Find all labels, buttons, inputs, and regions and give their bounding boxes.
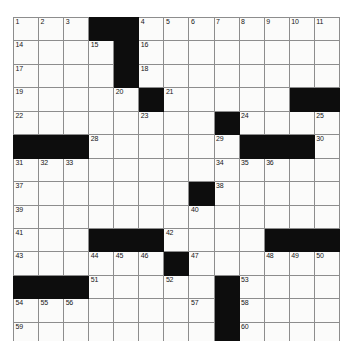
letter-cell[interactable]	[314, 41, 339, 64]
letter-cell[interactable]	[114, 275, 139, 298]
letter-cell[interactable]	[214, 228, 239, 251]
letter-cell[interactable]: 57	[189, 299, 214, 322]
letter-cell[interactable]	[314, 158, 339, 181]
letter-cell[interactable]	[164, 135, 189, 158]
letter-cell[interactable]	[189, 322, 214, 341]
letter-cell[interactable]	[64, 88, 89, 111]
letter-cell[interactable]: 10	[289, 18, 314, 41]
letter-cell[interactable]	[314, 322, 339, 341]
letter-cell[interactable]: 31	[14, 158, 39, 181]
letter-cell[interactable]	[39, 88, 64, 111]
letter-cell[interactable]	[289, 275, 314, 298]
letter-cell[interactable]	[164, 182, 189, 205]
letter-cell[interactable]	[189, 228, 214, 251]
letter-cell[interactable]	[139, 135, 164, 158]
letter-cell[interactable]	[64, 252, 89, 275]
letter-cell[interactable]	[89, 88, 114, 111]
letter-cell[interactable]	[189, 64, 214, 87]
letter-cell[interactable]	[239, 252, 264, 275]
letter-cell[interactable]	[164, 64, 189, 87]
letter-cell[interactable]: 41	[14, 228, 39, 251]
letter-cell[interactable]	[289, 64, 314, 87]
letter-cell[interactable]: 47	[189, 252, 214, 275]
letter-cell[interactable]	[264, 111, 289, 134]
letter-cell[interactable]	[64, 64, 89, 87]
letter-cell[interactable]: 48	[264, 252, 289, 275]
letter-cell[interactable]: 40	[189, 205, 214, 228]
letter-cell[interactable]: 8	[239, 18, 264, 41]
letter-cell[interactable]: 11	[314, 18, 339, 41]
letter-cell[interactable]: 60	[239, 322, 264, 341]
letter-cell[interactable]: 18	[139, 64, 164, 87]
letter-cell[interactable]	[189, 158, 214, 181]
letter-cell[interactable]	[164, 41, 189, 64]
letter-cell[interactable]	[39, 64, 64, 87]
letter-cell[interactable]: 22	[14, 111, 39, 134]
letter-cell[interactable]: 43	[14, 252, 39, 275]
letter-cell[interactable]	[264, 88, 289, 111]
letter-cell[interactable]	[164, 299, 189, 322]
letter-cell[interactable]	[89, 64, 114, 87]
letter-cell[interactable]	[114, 299, 139, 322]
letter-cell[interactable]	[289, 182, 314, 205]
letter-cell[interactable]: 9	[264, 18, 289, 41]
letter-cell[interactable]: 3	[64, 18, 89, 41]
letter-cell[interactable]	[189, 111, 214, 134]
letter-cell[interactable]	[64, 111, 89, 134]
letter-cell[interactable]	[214, 88, 239, 111]
letter-cell[interactable]: 15	[89, 41, 114, 64]
letter-cell[interactable]	[89, 205, 114, 228]
letter-cell[interactable]: 50	[314, 252, 339, 275]
letter-cell[interactable]: 7	[214, 18, 239, 41]
letter-cell[interactable]	[64, 41, 89, 64]
letter-cell[interactable]	[39, 322, 64, 341]
letter-cell[interactable]	[264, 182, 289, 205]
letter-cell[interactable]: 38	[214, 182, 239, 205]
letter-cell[interactable]: 55	[39, 299, 64, 322]
letter-cell[interactable]	[39, 252, 64, 275]
letter-cell[interactable]	[189, 88, 214, 111]
letter-cell[interactable]	[89, 111, 114, 134]
letter-cell[interactable]: 54	[14, 299, 39, 322]
letter-cell[interactable]	[114, 205, 139, 228]
letter-cell[interactable]	[239, 182, 264, 205]
letter-cell[interactable]: 49	[289, 252, 314, 275]
letter-cell[interactable]: 24	[239, 111, 264, 134]
letter-cell[interactable]	[164, 111, 189, 134]
letter-cell[interactable]	[164, 322, 189, 341]
letter-cell[interactable]	[239, 228, 264, 251]
letter-cell[interactable]	[164, 205, 189, 228]
letter-cell[interactable]	[114, 322, 139, 341]
letter-cell[interactable]	[139, 322, 164, 341]
letter-cell[interactable]	[139, 158, 164, 181]
letter-cell[interactable]	[64, 205, 89, 228]
letter-cell[interactable]	[314, 64, 339, 87]
letter-cell[interactable]	[64, 322, 89, 341]
letter-cell[interactable]	[189, 135, 214, 158]
letter-cell[interactable]	[139, 205, 164, 228]
letter-cell[interactable]: 39	[14, 205, 39, 228]
letter-cell[interactable]: 56	[64, 299, 89, 322]
letter-cell[interactable]	[214, 41, 239, 64]
letter-cell[interactable]	[289, 322, 314, 341]
letter-cell[interactable]: 58	[239, 299, 264, 322]
letter-cell[interactable]	[39, 41, 64, 64]
letter-cell[interactable]	[264, 299, 289, 322]
letter-cell[interactable]	[89, 299, 114, 322]
letter-cell[interactable]: 25	[314, 111, 339, 134]
letter-cell[interactable]: 30	[314, 135, 339, 158]
letter-cell[interactable]	[289, 111, 314, 134]
letter-cell[interactable]	[39, 111, 64, 134]
letter-cell[interactable]	[64, 228, 89, 251]
letter-cell[interactable]: 23	[139, 111, 164, 134]
letter-cell[interactable]	[264, 205, 289, 228]
letter-cell[interactable]: 5	[164, 18, 189, 41]
letter-cell[interactable]	[89, 182, 114, 205]
crossword-grid[interactable]: 1234567891011141516171819202122232425282…	[13, 17, 340, 341]
letter-cell[interactable]: 52	[164, 275, 189, 298]
letter-cell[interactable]: 14	[14, 41, 39, 64]
letter-cell[interactable]: 45	[114, 252, 139, 275]
letter-cell[interactable]	[264, 41, 289, 64]
letter-cell[interactable]: 28	[89, 135, 114, 158]
letter-cell[interactable]	[214, 64, 239, 87]
